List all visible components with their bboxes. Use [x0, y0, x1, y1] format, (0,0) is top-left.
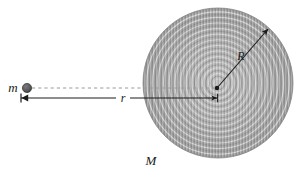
distance-label-r: r [121, 91, 126, 105]
diagram-canvas: R m r M [0, 0, 307, 178]
disk-mass-M [143, 8, 293, 158]
physics-diagram-figure: R m r M [0, 0, 307, 178]
point-mass-label-m: m [8, 80, 17, 95]
radius-label-R: R [236, 49, 245, 63]
disk-mass-label-M: M [145, 153, 158, 168]
disk-texture-overlay [143, 8, 293, 158]
point-mass-dot [22, 83, 31, 92]
